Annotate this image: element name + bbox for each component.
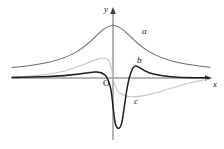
figure-canvas	[0, 0, 224, 149]
curve-c-label: c	[134, 97, 138, 106]
math-figure: y x O a b c	[0, 0, 224, 149]
x-axis-label: x	[213, 80, 217, 89]
curve-b-label: b	[137, 56, 142, 65]
origin-label: O	[103, 79, 110, 88]
y-axis-arrowhead	[110, 7, 116, 14]
curve-a-path	[12, 25, 210, 67]
y-axis-label: y	[104, 5, 108, 14]
curve-a-label: a	[142, 27, 147, 36]
